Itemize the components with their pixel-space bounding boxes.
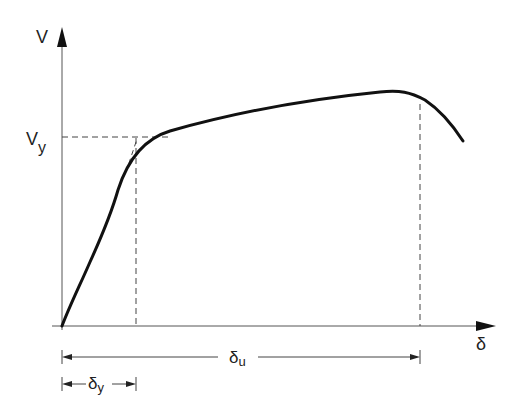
force-displacement-curve (62, 91, 463, 326)
delta-y-label: δy (88, 374, 104, 395)
du-arrow-left-icon (62, 354, 72, 360)
x-axis-label: δ (476, 334, 486, 354)
y-axis-label: V (36, 27, 48, 47)
delta-u-label: δu (229, 348, 246, 369)
pushover-curve-diagram: V δ Vy δu δy (0, 0, 514, 411)
du-arrow-right-icon (410, 354, 420, 360)
x-axis-arrow-icon (476, 321, 496, 331)
y-axis-arrow-icon (57, 27, 67, 47)
vy-label: Vy (26, 129, 46, 156)
dy-arrow-right-icon (126, 381, 136, 387)
dy-arrow-left-icon (62, 381, 72, 387)
